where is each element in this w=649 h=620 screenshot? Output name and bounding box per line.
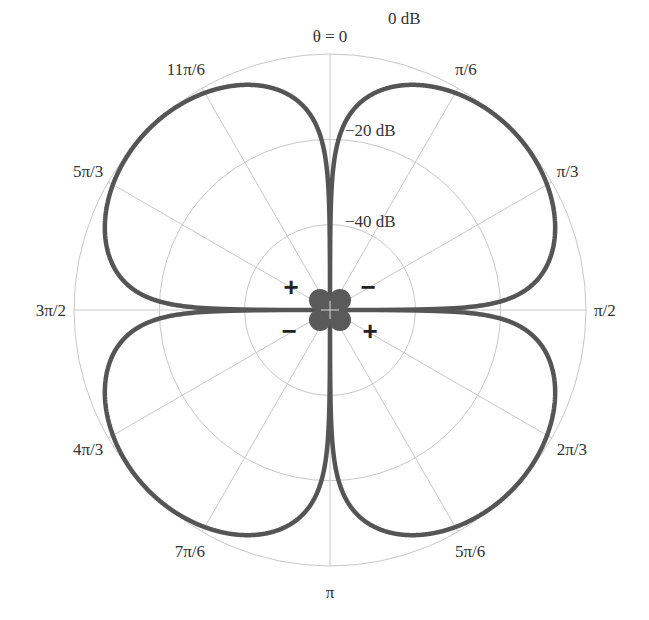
- source-lobe: [309, 309, 331, 331]
- grid-spoke: [108, 310, 330, 438]
- angle-label: 5π/6: [455, 542, 485, 561]
- source-lobe: [329, 289, 351, 311]
- grid-spoke: [330, 310, 458, 532]
- angle-label: π/6: [455, 60, 477, 79]
- radial-label: 0 dB: [388, 9, 421, 28]
- radial-label: −40 dB: [345, 212, 396, 231]
- source-lobe: [329, 309, 351, 331]
- angle-label: π: [326, 583, 335, 602]
- grid-spoke: [202, 310, 330, 532]
- angle-label: 7π/6: [175, 542, 205, 561]
- angle-label: π/2: [594, 301, 616, 320]
- minus-sign: −: [281, 316, 296, 346]
- plus-sign: +: [283, 272, 298, 302]
- angle-label: 3π/2: [36, 301, 66, 320]
- angle-label: 5π/3: [73, 162, 103, 181]
- minus-sign: −: [360, 272, 375, 302]
- source-lobe: [309, 289, 331, 311]
- grid-spoke: [202, 88, 330, 310]
- angle-label: 11π/6: [167, 60, 205, 79]
- angle-label: 2π/3: [557, 440, 587, 459]
- angle-label-zero: θ = 0: [313, 27, 348, 46]
- plus-sign: +: [362, 316, 377, 346]
- angle-label: π/3: [557, 162, 579, 181]
- angle-label: 4π/3: [73, 440, 103, 459]
- polar-chart: θ = 0π/6π/3π/22π/35π/6π7π/64π/33π/25π/31…: [0, 0, 649, 620]
- radial-label: −20 dB: [345, 121, 396, 140]
